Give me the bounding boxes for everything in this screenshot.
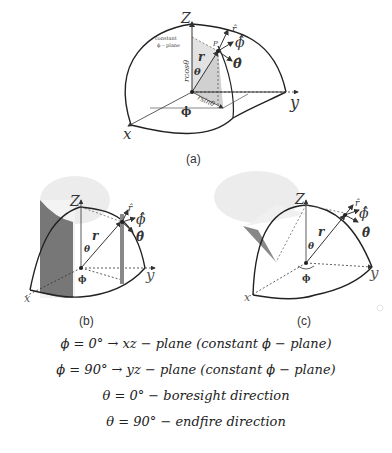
fig-a-theta-label: θ: [194, 66, 201, 77]
fig-b-phi-label: ϕ: [78, 274, 87, 284]
figure-a-spherical-coordinates: Z y x P r θ ϕ r̂ ϕ̂ θ̂ rcosθ rsinθ const…: [0, 0, 392, 453]
fig-a-r-vector-label: r: [198, 50, 206, 64]
figure-a-drawing: [125, 22, 298, 134]
fig-b-r-vector-label: r: [92, 229, 100, 243]
figure-c-drawing: [214, 171, 372, 299]
figure-b-drawing: [26, 176, 155, 298]
fig-a-x-axis-label: x: [123, 125, 132, 143]
fig-c-y-axis-label: y: [369, 264, 379, 282]
fig-a-rcos-label: rcosθ: [182, 60, 191, 82]
fig-a-rsin-label: rsinθ: [196, 94, 216, 109]
fig-a-r-hat-label: r̂: [232, 24, 237, 34]
fig-a-point-label: P: [212, 40, 218, 48]
fig-a-phi-label: ϕ: [181, 105, 191, 118]
fig-a-constant-label: constant: [155, 35, 177, 41]
fig-a-y-axis-label: y: [289, 93, 300, 112]
fig-c-z-axis-label: Z: [294, 191, 305, 207]
fig-a-phi-hat-label: ϕ̂: [235, 34, 245, 50]
fig-c-r-hat-label: r̂: [355, 198, 360, 208]
equation-theta-90: θ = 90° − endfire direction: [0, 414, 392, 429]
fig-a-z-axis-label: Z: [180, 10, 191, 26]
fig-c-theta-hat-label: θ̂: [362, 226, 370, 240]
fig-c-theta-label: θ: [308, 241, 314, 251]
caption-b: (b): [79, 314, 94, 328]
fig-a-plane-label: ϕ – plane: [157, 42, 180, 49]
caption-c: (c): [297, 314, 311, 328]
fig-c-phi-label: ϕ: [302, 273, 311, 283]
fig-b-r-hat-label: r̂: [128, 203, 133, 213]
caption-a: (a): [186, 152, 201, 166]
fig-b-y-axis-label: y: [145, 266, 155, 284]
fig-c-x-axis-label: x: [244, 291, 251, 304]
equation-phi-0: ϕ = 0° → xz − plane (constant ϕ − plane): [0, 336, 392, 351]
fig-b-z-axis-label: Z: [69, 193, 80, 209]
fig-c-phi-hat-label: ϕ̂: [359, 205, 369, 221]
fig-b-theta-hat-label: θ̂: [136, 230, 144, 244]
fig-a-theta-hat-label: θ̂: [233, 56, 242, 71]
fig-b-x-axis-label: x: [24, 292, 31, 305]
fig-b-theta-label: θ: [84, 244, 90, 254]
equation-phi-90: ϕ = 90° → yz − plane (constant ϕ − plane…: [0, 362, 392, 377]
equation-theta-0: θ = 0° − boresight direction: [0, 388, 392, 403]
fig-b-phi-hat-label: ϕ̂: [136, 211, 146, 227]
fig-c-r-vector-label: r: [318, 225, 326, 239]
